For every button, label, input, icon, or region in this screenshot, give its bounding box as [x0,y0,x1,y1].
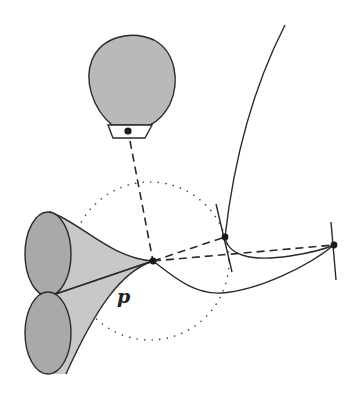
balloon-body [89,35,175,125]
point-right [331,242,338,249]
camera-ray [130,141,153,261]
diagram-figure: p [0,0,355,394]
viewing-cones [25,212,153,374]
lower-cone-base [25,292,71,374]
upper-cone-base [25,212,71,296]
tangent-right [331,222,336,280]
upper-curve [225,25,334,258]
dashed-p-to-middle [153,237,225,261]
point-p-label: p [117,285,131,307]
point-middle [222,234,229,241]
point-p [150,258,157,265]
camera-center-dot [124,127,131,134]
balloon-camera [89,35,175,138]
